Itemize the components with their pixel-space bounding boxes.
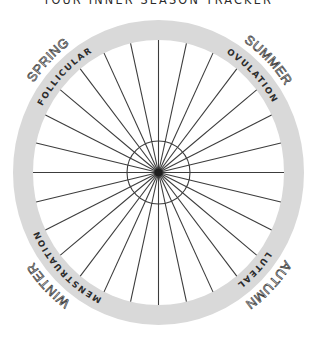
day-spoke xyxy=(45,115,158,172)
day-spoke xyxy=(159,173,272,230)
day-spoke xyxy=(159,173,213,292)
day-spoke xyxy=(159,115,272,172)
day-spoke xyxy=(159,53,213,172)
cycle-wheel: FOLLICULAR OVULATION LUTEAL MENSTRUATION… xyxy=(0,0,316,354)
day-spoke xyxy=(104,53,158,172)
center-hub xyxy=(155,169,163,177)
day-spoke xyxy=(45,173,158,230)
day-spoke xyxy=(104,173,158,292)
